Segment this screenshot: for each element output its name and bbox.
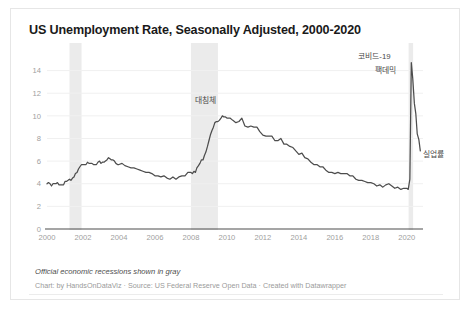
x-axis-ticks-group: 2000200220042006200820102012201420162018… [39,233,416,242]
x-tick-label: 2004 [111,233,128,242]
x-tick-label: 2018 [362,233,379,242]
y-tick-label: 8 [37,134,41,143]
chart-credit: Chart: by HandsOnDataViz · Source: US Fe… [35,281,445,290]
x-tick-label: 2020 [398,233,415,242]
y-tick-label: 2 [37,202,41,211]
recession-note: Official economic recessions shown in gr… [35,267,445,276]
chart-annotation: 실업률 [423,149,444,159]
chart-annotation: 코비드-19 [358,52,390,61]
x-tick-label: 2008 [182,233,199,242]
x-tick-label: 2006 [146,233,163,242]
x-tick-label: 2000 [39,233,56,242]
chart-plot-area: 02468101214 2000200220042006200820102012… [11,43,460,265]
y-tick-label: 6 [37,157,41,166]
x-tick-label: 2010 [218,233,235,242]
y-tick-label: 12 [33,89,41,98]
y-tick-label: 10 [33,112,41,121]
x-tick-label: 2002 [75,233,92,242]
gridlines-group [47,71,423,207]
chart-annotations-group: 대침체코비드-19팩데믹실업률 [195,52,444,158]
unemployment-line-chart: 02468101214 2000200220042006200820102012… [11,43,460,265]
y-tick-label: 4 [37,179,41,188]
footer-divider [29,294,443,295]
series-path [47,63,420,190]
unemployment-series-line [47,63,420,190]
chart-footer: Official economic recessions shown in gr… [35,267,445,290]
x-tick-label: 2016 [326,233,343,242]
x-tick-label: 2014 [290,233,307,242]
y-axis-ticks-group: 02468101214 [33,66,41,233]
y-tick-label: 14 [33,66,41,75]
chart-card: US Unemployment Rate, Seasonally Adjuste… [10,8,460,300]
x-tick-label: 2012 [254,233,271,242]
page-title: US Unemployment Rate, Seasonally Adjuste… [29,23,449,37]
chart-annotation: 대침체 [195,95,216,105]
chart-annotation: 팩데믹 [375,65,396,75]
